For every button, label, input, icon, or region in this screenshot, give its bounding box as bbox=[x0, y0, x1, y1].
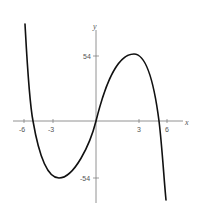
y-tick-label-neg54: -54 bbox=[80, 175, 90, 182]
function-graph: -6 -3 3 6 54 -54 x y bbox=[0, 0, 201, 208]
function-curve bbox=[25, 24, 166, 200]
x-tick-label-neg3: -3 bbox=[48, 126, 54, 133]
x-tick-label-3: 3 bbox=[137, 126, 141, 133]
x-tick-label-neg6: -6 bbox=[19, 126, 25, 133]
x-tick-label-6: 6 bbox=[165, 126, 169, 133]
y-tick-label-54: 54 bbox=[83, 53, 91, 60]
x-axis-label: x bbox=[184, 118, 189, 127]
y-axis-label: y bbox=[92, 22, 97, 31]
